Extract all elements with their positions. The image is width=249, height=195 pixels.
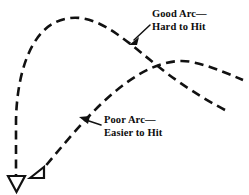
good-arc-label-line2: Hard to Hit <box>152 21 207 34</box>
poor-arc-pointer <box>79 116 101 125</box>
good-arc-curve <box>16 18 225 183</box>
good-arc-label-line1: Good Arc— <box>152 8 207 21</box>
poor-arc-label-line2: Easier to Hit <box>104 127 162 140</box>
good-arc-label: Good Arc— Hard to Hit <box>152 8 207 33</box>
trajectory-diagram: Good Arc— Hard to Hit Poor Arc— Easier t… <box>0 0 249 195</box>
poor-arc-label: Poor Arc— Easier to Hit <box>104 114 162 139</box>
good-arc-pointer <box>129 25 150 45</box>
poor-arc-endpoint-marker <box>30 167 44 178</box>
diagram-canvas <box>0 0 249 195</box>
good-arc-endpoint-marker <box>8 176 25 192</box>
poor-arc-label-line1: Poor Arc— <box>104 114 162 127</box>
